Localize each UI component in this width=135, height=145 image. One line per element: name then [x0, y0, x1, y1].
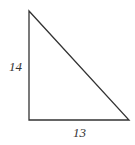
horizontal-leg-label: 13	[73, 125, 87, 140]
right-triangle	[29, 11, 129, 120]
triangle-diagram: 14 13	[0, 0, 135, 145]
vertical-leg-label: 14	[9, 59, 23, 74]
